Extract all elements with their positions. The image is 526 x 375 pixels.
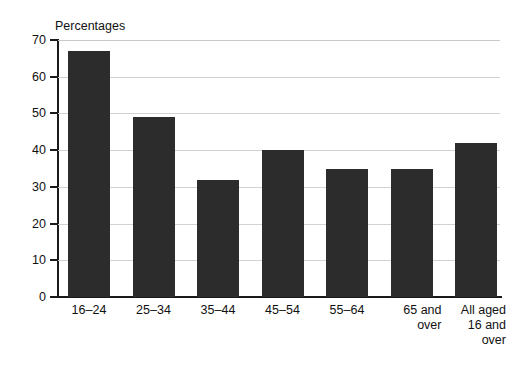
x-axis-tick-label: 35–44: [186, 303, 250, 318]
y-axis-tick-label: 70: [2, 34, 46, 46]
x-axis-tick-label-line: 16 and: [446, 318, 506, 333]
bar: [68, 51, 110, 297]
x-axis-tick-label-line: over: [446, 333, 506, 348]
y-axis-tick: [50, 259, 58, 261]
gridline: [58, 40, 500, 41]
y-axis-tick-label: 20: [2, 218, 46, 230]
y-axis-tick-label: 30: [2, 181, 46, 193]
bar: [133, 117, 175, 297]
y-axis-tick: [50, 149, 58, 151]
y-axis-tick: [50, 186, 58, 188]
x-axis-tick-label: 65 andover: [382, 303, 446, 333]
x-axis-tick-label: All aged16 andover: [446, 303, 510, 348]
x-axis-tick-label: 16–24: [57, 303, 121, 318]
x-axis-tick-label-line: 35–44: [186, 303, 250, 318]
y-axis-tick: [50, 296, 58, 298]
x-axis-tick-label: 55–64: [315, 303, 379, 318]
bar-chart: Percentages 706050403020100 16–2425–3435…: [0, 0, 526, 375]
x-axis-tick-labels: 16–2425–3435–4445–5455–6465 andoverAll a…: [58, 303, 508, 369]
y-axis-tick: [50, 76, 58, 78]
chart-title: Percentages: [55, 19, 125, 33]
y-axis-tick-label: 60: [2, 71, 46, 83]
plot-area: [58, 40, 500, 297]
x-axis-tick-label-line: 55–64: [315, 303, 379, 318]
y-axis-tick: [50, 112, 58, 114]
y-axis-tick-label: 50: [2, 107, 46, 119]
x-axis-tick-label: 25–34: [122, 303, 186, 318]
x-axis-tick-label-line: All aged: [446, 303, 506, 318]
gridline: [58, 113, 500, 114]
y-axis-tick-label: 40: [2, 144, 46, 156]
y-axis-tick: [50, 223, 58, 225]
x-axis-tick-label: 45–54: [251, 303, 315, 318]
y-axis-tick: [50, 39, 58, 41]
x-axis-tick-label-line: 65 and: [382, 303, 442, 318]
bar: [197, 180, 239, 297]
x-axis-tick-label-line: over: [382, 318, 442, 333]
y-axis-tick-label: 0: [2, 291, 46, 303]
y-axis-tick-label: 10: [2, 254, 46, 266]
gridline: [58, 77, 500, 78]
x-axis-tick-label-line: 45–54: [251, 303, 315, 318]
x-axis-tick-label-line: 25–34: [122, 303, 186, 318]
bar: [455, 143, 497, 297]
bar: [326, 169, 368, 298]
y-axis-tick-labels: 706050403020100: [0, 0, 46, 375]
bar: [391, 169, 433, 298]
bar: [262, 150, 304, 297]
x-axis-tick-label-line: 16–24: [57, 303, 121, 318]
